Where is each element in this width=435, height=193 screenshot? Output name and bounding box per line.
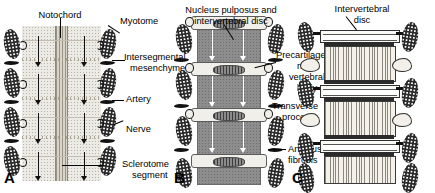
sclerotome-line xyxy=(22,117,101,118)
intersegmental-artery xyxy=(4,100,19,104)
leader-artery xyxy=(112,100,124,101)
leader-notochord xyxy=(60,18,61,38)
leader-annulus-fibrosis xyxy=(268,149,286,150)
label-sclerotome-line2: segment xyxy=(132,170,168,180)
nucleus-pulposus xyxy=(213,111,245,121)
panel-letter-a: A xyxy=(4,170,15,185)
spinal-nerve xyxy=(96,80,104,89)
migration-arrow xyxy=(38,74,39,100)
spinal-nerve xyxy=(19,119,27,128)
spinal-nerve xyxy=(96,41,104,50)
migration-arrow xyxy=(84,36,85,62)
transverse-process xyxy=(392,113,412,127)
cartilaginous-vertebral-body xyxy=(324,46,396,82)
panel-c: Intervertebral disc C xyxy=(290,0,435,193)
pedicle xyxy=(313,87,320,90)
intersegmental-artery xyxy=(174,58,189,62)
precartilaginous-vertebral-body xyxy=(197,74,261,110)
label-nerve: Nerve xyxy=(126,124,151,134)
growth-arrow xyxy=(212,122,213,148)
migration-arrow xyxy=(84,152,85,176)
growth-arrow xyxy=(212,30,213,56)
intervertebral-disc xyxy=(191,62,267,76)
growth-arrow xyxy=(243,76,244,102)
intervertebral-disc xyxy=(191,154,267,168)
intersegmental-artery xyxy=(100,139,115,143)
nucleus-pulposus xyxy=(213,65,245,75)
transverse-process xyxy=(300,113,320,127)
sclerotome-boundary xyxy=(22,97,101,100)
growth-arrow xyxy=(243,122,244,148)
cartilaginous-vertebral-body xyxy=(324,101,396,137)
label-notochord: Notochord xyxy=(24,10,96,20)
panel-letter-b: B xyxy=(174,170,185,185)
myotome-somite xyxy=(400,132,420,164)
disc-inner-band xyxy=(323,89,397,96)
migration-arrow xyxy=(38,113,39,139)
label-sclerotome-line1: Sclerotome xyxy=(122,159,169,169)
spinal-nerve xyxy=(19,41,27,50)
disc-inner-band xyxy=(323,34,397,41)
sclerotome-line xyxy=(22,78,101,79)
intersegmental-artery xyxy=(100,61,115,65)
vertebral-endplate xyxy=(324,80,394,84)
leader-sclerotome xyxy=(62,165,104,166)
cartilaginous-vertebral-body xyxy=(324,156,396,184)
spinal-nerve xyxy=(19,80,27,89)
myotome-somite xyxy=(296,77,316,109)
label-myotome: Myotome xyxy=(120,16,158,26)
panel-b: Nucleus pulposus and intervertebral disc… xyxy=(172,0,290,193)
disc-inner-band xyxy=(323,144,397,151)
intervertebral-disc xyxy=(191,108,267,122)
sclerotome-line xyxy=(22,40,101,41)
precartilaginous-vertebral-body xyxy=(197,166,261,185)
panel-a: Notochord Myotome Intersegmental mesench… xyxy=(0,0,172,193)
sclerotome-boundary xyxy=(22,58,101,61)
intersegmental-artery xyxy=(4,139,19,143)
myotome-somite xyxy=(266,157,286,189)
intersegmental-artery xyxy=(4,61,19,65)
label-disc-line2: disc xyxy=(298,15,426,25)
sclerotome-boundary xyxy=(22,136,101,139)
intersegmental-artery xyxy=(174,104,189,108)
figure-root: Notochord Myotome Intersegmental mesench… xyxy=(0,0,435,193)
label-nucleus-line1: Nucleus pulposus and xyxy=(168,5,294,15)
growth-arrow xyxy=(212,76,213,102)
label-artery: Artery xyxy=(126,94,151,104)
spinal-nerve xyxy=(96,119,104,128)
myotome-somite xyxy=(400,162,420,193)
panel-b-vertebral-column xyxy=(197,28,259,183)
myotome-somite xyxy=(296,132,316,164)
annulus-fibrosis xyxy=(213,157,245,167)
migration-arrow xyxy=(38,36,39,62)
pedicle xyxy=(313,32,320,35)
label-nucleus-line2: intervertebral disc xyxy=(168,16,294,26)
sclerotome-line xyxy=(22,156,101,157)
myotome-somite xyxy=(400,21,420,53)
panel-c-vertebral-column xyxy=(320,30,398,186)
growth-arrow xyxy=(243,30,244,56)
myotome-somite xyxy=(296,21,316,53)
pedicle xyxy=(313,142,320,145)
myotome-somite xyxy=(400,77,420,109)
transverse-process xyxy=(392,58,412,72)
notochord-band xyxy=(55,26,68,181)
panel-letter-c: C xyxy=(292,170,303,185)
precartilaginous-vertebral-body xyxy=(197,120,261,156)
migration-arrow xyxy=(84,113,85,139)
spinal-nerve xyxy=(19,158,27,167)
migration-arrow xyxy=(38,152,39,176)
label-disc-line1: Intervertebral xyxy=(298,4,426,14)
migration-arrow xyxy=(84,74,85,100)
transverse-process xyxy=(300,58,320,72)
intersegmental-artery xyxy=(174,148,189,152)
vertebral-endplate xyxy=(324,135,394,139)
